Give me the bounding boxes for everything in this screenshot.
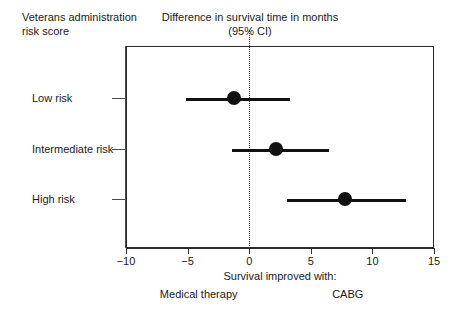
- reference-line-zero: [249, 30, 250, 248]
- x-axis-tick-label: 5: [291, 255, 331, 267]
- x-axis-tick: [372, 248, 373, 254]
- x-axis-tick: [188, 248, 189, 254]
- row-label-high-risk: High risk: [32, 193, 75, 205]
- category-tick: [112, 98, 126, 99]
- x-axis-caption: Survival improved with:: [190, 270, 370, 282]
- x-axis-tick-label: 0: [229, 255, 269, 267]
- x-axis-tick-label: 10: [352, 255, 392, 267]
- x-axis-tick-label: 15: [414, 255, 454, 267]
- x-axis-tick: [249, 248, 250, 254]
- x-axis-tick: [434, 248, 435, 254]
- category-tick: [112, 199, 126, 200]
- column-header-difference-line1: Difference in survival time in months: [162, 11, 338, 23]
- category-axis-spine: [125, 46, 126, 248]
- x-axis-tick-label: −5: [168, 255, 208, 267]
- row-label-low-risk: Low risk: [32, 92, 72, 104]
- row-label-intermediate-risk: Intermediate risk: [32, 143, 113, 155]
- x-axis-tick: [126, 248, 127, 254]
- category-tick: [112, 149, 126, 150]
- x-axis-line: [126, 248, 434, 249]
- caption-cabg: CABG: [258, 288, 438, 300]
- x-axis-tick: [311, 248, 312, 254]
- x-axis-tick-label: −10: [106, 255, 146, 267]
- forest-plot-figure: Veterans administration risk score Diffe…: [0, 0, 463, 309]
